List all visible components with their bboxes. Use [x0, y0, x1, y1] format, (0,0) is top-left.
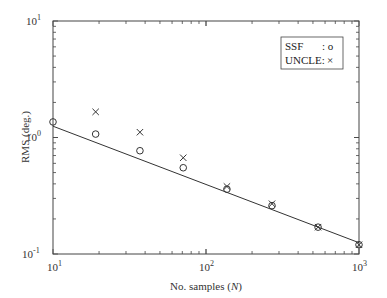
x-tick-label-10-2: 102	[199, 259, 214, 273]
legend-uncle-marker: ×	[327, 54, 333, 66]
legend-uncle-label: UNCLE:	[285, 54, 325, 66]
rms-vs-samples-chart: 101 100 10-1 101 102 103 No. samples (N)…	[0, 0, 387, 298]
data-points	[50, 109, 363, 248]
x-tick-label-10-3: 103	[352, 259, 367, 273]
legend-ssf-marker: : o	[322, 40, 334, 52]
legend: SSF : o UNCLE: ×	[281, 37, 343, 69]
fit-line-path	[53, 126, 359, 242]
y-tick-label-10-1: 101	[26, 13, 41, 27]
ssf-point-marker	[92, 131, 99, 138]
uncle-point-marker	[315, 224, 321, 230]
uncle-point-marker	[92, 109, 98, 115]
y-axis-title: RMS (deg.)	[19, 111, 32, 163]
legend-ssf-label: SSF	[285, 40, 303, 52]
x-tick-label-10-1: 101	[47, 259, 62, 273]
y-tick-label-10-neg1: 10-1	[22, 246, 40, 260]
uncle-point-marker	[137, 129, 143, 135]
x-axis-title: No. samples (N)	[170, 280, 242, 293]
ssf-point-marker	[137, 147, 144, 154]
ssf-point-marker	[180, 164, 187, 171]
fit-line	[53, 126, 359, 242]
uncle-point-marker	[180, 155, 186, 161]
